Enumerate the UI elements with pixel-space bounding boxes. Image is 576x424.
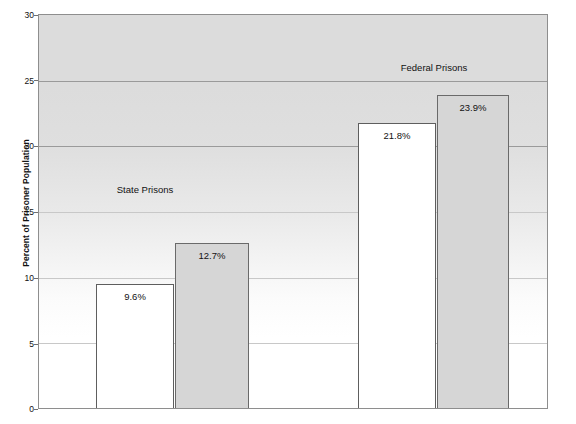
- gridline-25: [39, 81, 547, 82]
- plot-area: State Prisons Federal Prisons 9.6% 12.7%…: [38, 14, 548, 409]
- y-tick-label-15: 15: [8, 208, 34, 217]
- bar-value-federal-prisons-white: 21.8%: [358, 131, 436, 141]
- y-tick-label-20: 20: [8, 142, 34, 151]
- bar-chart: Percent of Prisoner Population 30 25 20 …: [0, 0, 576, 424]
- y-tick-label-0: 0: [8, 405, 34, 414]
- bar-value-state-prisons-gray: 12.7%: [175, 251, 249, 261]
- bar-state-prisons-white[interactable]: [96, 284, 174, 409]
- bar-federal-prisons-gray[interactable]: [437, 95, 509, 409]
- group-label-state-prisons: State Prisons: [85, 185, 205, 195]
- bar-federal-prisons-white[interactable]: [358, 123, 436, 409]
- group-label-federal-prisons: Federal Prisons: [374, 63, 494, 73]
- bar-value-state-prisons-white: 9.6%: [96, 292, 174, 302]
- bar-value-federal-prisons-gray: 23.9%: [437, 103, 509, 113]
- y-tick-label-10: 10: [8, 274, 34, 283]
- y-tick-label-25: 25: [8, 77, 34, 86]
- bar-state-prisons-gray[interactable]: [175, 243, 249, 409]
- y-tick-label-5: 5: [8, 340, 34, 349]
- y-tick-label-30: 30: [8, 11, 34, 20]
